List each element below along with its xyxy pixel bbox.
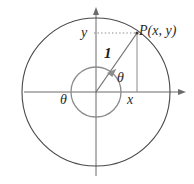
y-coordinate-label: y [81,26,87,40]
radius-length-label: 1 [104,46,112,61]
angle-theta-outer-label: θ [60,93,67,107]
angle-theta-inner-label: θ [117,71,124,85]
point-p-label: P(x, y) [139,24,176,38]
x-axis-arrowhead [178,89,186,95]
x-coordinate-label: x [127,93,133,107]
y-axis-arrowhead [93,7,99,15]
unit-circle-figure: P(x, y) y x 1 θ θ [0,0,194,184]
